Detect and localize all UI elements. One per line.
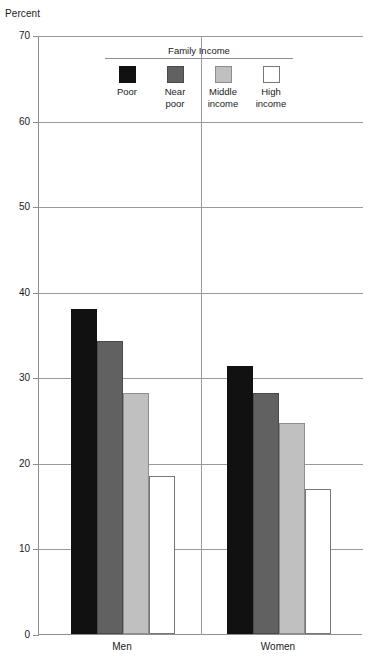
legend-title: Family Income [105,45,293,56]
bar-men-poor [71,309,97,634]
y-tick-label-30: 30 [4,372,30,383]
y-tick-mark-30 [33,378,39,379]
legend-swatch-icon-3 [263,66,280,83]
y-tick-label-50: 50 [4,201,30,212]
y-tick-label-20: 20 [4,458,30,469]
legend-divider [105,58,293,59]
y-tick-mark-50 [33,207,39,208]
bar-men-high-income [149,476,175,634]
legend-item-middle-income[interactable]: Middle income [201,66,245,109]
legend-swatch-icon-0 [119,66,136,83]
legend-item-poor[interactable]: Poor [105,66,149,98]
legend-item-label: Near poor [153,86,197,109]
bar-women-near-poor [253,393,279,634]
y-tick-mark-60 [33,122,39,123]
bar-men-near-poor [97,341,123,635]
y-tick-mark-0 [33,635,39,636]
legend-item-label: Middle income [201,86,245,109]
y-tick-label-10: 10 [4,543,30,554]
legend-items: PoorNear poorMiddle incomeHigh income [105,66,293,109]
x-tick-label-men: Men [92,641,152,652]
y-axis-title: Percent [5,8,40,19]
legend-item-label: Poor [105,86,149,98]
legend-item-high-income[interactable]: High income [249,66,293,109]
x-tick-label-women: Women [248,641,308,652]
y-tick-label-40: 40 [4,287,30,298]
y-tick-label-70: 70 [4,30,30,41]
y-tick-mark-10 [33,549,39,550]
legend-swatch-icon-1 [167,66,184,83]
legend-item-near-poor[interactable]: Near poor [153,66,197,109]
bar-women-middle-income [279,423,305,634]
bar-chart: Percent 010203040506070 MenWomen Family … [0,0,373,665]
y-tick-mark-70 [33,36,39,37]
y-tick-mark-20 [33,464,39,465]
y-tick-label-0: 0 [4,629,30,640]
bar-women-high-income [305,489,331,634]
plot-area [38,36,362,635]
group-separator [201,36,202,635]
bar-women-poor [227,366,253,634]
legend-item-label: High income [249,86,293,109]
bar-men-middle-income [123,393,149,634]
y-tick-mark-40 [33,293,39,294]
y-tick-label-60: 60 [4,116,30,127]
legend-swatch-icon-2 [215,66,232,83]
chart-legend: Family Income PoorNear poorMiddle income… [105,45,293,109]
